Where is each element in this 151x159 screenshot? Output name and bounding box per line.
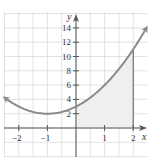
x-axis-label: x [141,131,147,142]
y-tick-label: 10 [62,52,72,62]
y-tick-label: 14 [62,23,72,33]
y-tick-label: 4 [67,94,72,104]
x-tick-label: −2 [12,133,22,143]
parabola-chart: −2−1122468101214 x y [0,0,151,159]
y-axis-label: y [66,11,72,22]
x-tick-label: 1 [102,133,107,143]
y-tick-label: 8 [67,66,72,76]
y-tick-label: 6 [67,80,72,90]
x-tick-label: 2 [131,133,136,143]
x-tick-label: −1 [41,133,51,143]
y-tick-label: 12 [62,37,71,47]
y-tick-label: 2 [67,109,72,119]
